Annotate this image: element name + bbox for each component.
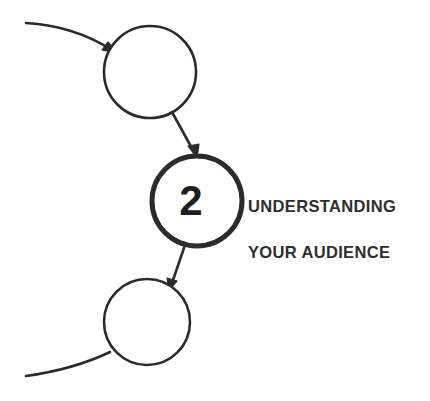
current-step-title: UNDERSTANDING YOUR AUDIENCE [248,172,426,287]
current-step-title-line-2: YOUR AUDIENCE [248,241,426,264]
connector-current-to-next-path [172,245,185,283]
flow-diagram: 2 UNDERSTANDING YOUR AUDIENCE [0,0,430,401]
previous-step-circle[interactable] [104,26,196,118]
incoming-curve-path [26,23,112,50]
incoming-curve-top-left [26,23,117,53]
current-step-title-line-1: UNDERSTANDING [248,195,426,218]
next-step-circle[interactable] [104,279,190,365]
current-step-number: 2 [179,177,202,224]
outgoing-curve-bottom-left [26,352,110,376]
connector-current-to-next [167,245,185,290]
connector-previous-to-current [172,112,199,158]
